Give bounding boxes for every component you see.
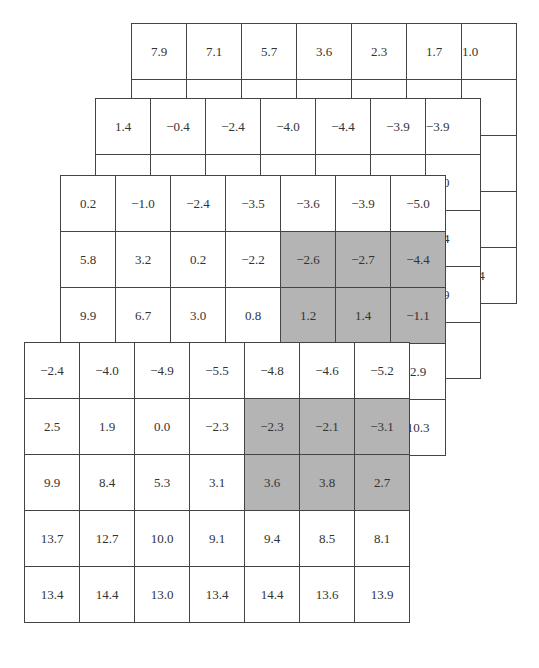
grid-cell: 0.2 (171, 232, 226, 288)
grid-cell-shaded: 1.4 (336, 288, 391, 344)
grid-cell: 9.1 (190, 511, 245, 567)
grid-cell-shaded: 3.8 (300, 455, 355, 511)
grid-cell: 3.0 (171, 288, 226, 344)
grid-cell: 13.9 (355, 567, 410, 623)
grid-cell-shaded: −4.4 (391, 232, 446, 288)
grid-cell: −2.4 (25, 343, 80, 399)
grid-cell: 13.6 (300, 567, 355, 623)
grid-cell: −3.6 (281, 176, 336, 232)
grid-cell: 5.8 (61, 232, 116, 288)
grid-cell: −5.0 (391, 176, 446, 232)
grid-cell: −4.6 (300, 343, 355, 399)
grid-cell: −2.4 (171, 176, 226, 232)
grid-cell-shaded: −2.1 (300, 399, 355, 455)
grid-cell: −4.4 (316, 99, 371, 155)
grid-cell: 0.2 (61, 176, 116, 232)
grid-cell: −2.4 (206, 99, 261, 155)
grid-cell: 9.9 (25, 455, 80, 511)
grid-cell: 13.0 (135, 567, 190, 623)
grid-cell: 3.6 (297, 24, 352, 80)
grid-cell-shaded: 2.7 (355, 455, 410, 511)
grid-cell: 5.3 (135, 455, 190, 511)
grid-cell-shaded: −3.1 (355, 399, 410, 455)
grid-layer-4: −2.4−4.0−4.9−5.5−4.8−4.6−5.22.51.90.0−2.… (24, 342, 410, 623)
grid-cell: 1.9 (80, 399, 135, 455)
grid-cell: −3.9 (371, 99, 426, 155)
grid-cell: 7.1 (187, 24, 242, 80)
grid-cell: 0.8 (226, 288, 281, 344)
grid-cell: 13.7 (25, 511, 80, 567)
grid-cell: 14.4 (80, 567, 135, 623)
grid-cell: −1.0 (116, 176, 171, 232)
grid-cell: 10.0 (135, 511, 190, 567)
grid-cell: −3.9 (426, 99, 481, 155)
grid-cell: 2.5 (25, 399, 80, 455)
grid-cell: −5.5 (190, 343, 245, 399)
grid-cell-shaded: −2.6 (281, 232, 336, 288)
grid-cell: −5.2 (355, 343, 410, 399)
grid-cell: 3.1 (190, 455, 245, 511)
grid-cell: 13.4 (190, 567, 245, 623)
grid-cell: 6.7 (116, 288, 171, 344)
grid-cell-shaded: −2.7 (336, 232, 391, 288)
grid-cell: 14.4 (245, 567, 300, 623)
grid-cell: 3.2 (116, 232, 171, 288)
grid-cell: −2.3 (190, 399, 245, 455)
grid-cell: 12.7 (80, 511, 135, 567)
grid-cell: 9.4 (245, 511, 300, 567)
grid-cell: 5.7 (242, 24, 297, 80)
grid-cell: 1.4 (96, 99, 151, 155)
grid-cell: 2.3 (352, 24, 407, 80)
grid-cell-shaded: −1.1 (391, 288, 446, 344)
grid-cell: −0.4 (151, 99, 206, 155)
grid-cell: −4.0 (80, 343, 135, 399)
grid-cell: 0.0 (135, 399, 190, 455)
grid-cell: 7.9 (132, 24, 187, 80)
grid-cell: −3.5 (226, 176, 281, 232)
grid-cell: −4.9 (135, 343, 190, 399)
grid-cell: 8.5 (300, 511, 355, 567)
grid-cell: 8.1 (355, 511, 410, 567)
grid-cell-shaded: 1.2 (281, 288, 336, 344)
grid-cell-shaded: 3.6 (245, 455, 300, 511)
grid-cell-shaded: −2.3 (245, 399, 300, 455)
grid-cell: −4.8 (245, 343, 300, 399)
grid-cell: 1.0 (462, 24, 517, 80)
grid-cell: −2.2 (226, 232, 281, 288)
grid-cell: 9.9 (61, 288, 116, 344)
grid-cell: −4.0 (261, 99, 316, 155)
grid-cell: 1.7 (407, 24, 462, 80)
grid-cell: 8.4 (80, 455, 135, 511)
grid-cell: 13.4 (25, 567, 80, 623)
grid-cell: −3.9 (336, 176, 391, 232)
